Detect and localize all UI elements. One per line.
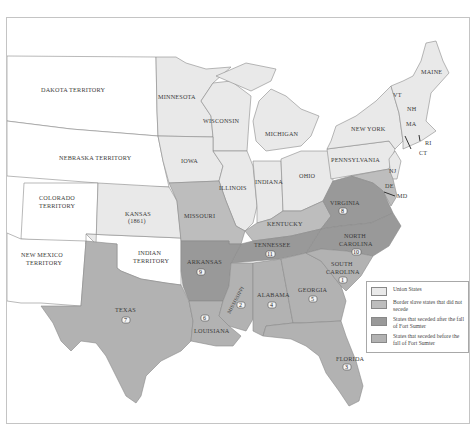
label-south-carolina-1: SOUTH bbox=[331, 260, 353, 267]
label-indiana: INDIANA bbox=[255, 178, 283, 185]
label-missouri: MISSOURI bbox=[184, 212, 215, 219]
label-colorado-territory-1: COLORADO bbox=[39, 194, 75, 201]
label-louisiana: LOUISIANA bbox=[194, 327, 230, 334]
label-pennsylvania: PENNSYLVANIA bbox=[331, 156, 380, 163]
label-illinois: ILLINOIS bbox=[219, 184, 247, 191]
label-michigan: MICHIGAN bbox=[265, 130, 299, 137]
legend-label: States that seceded after the fall of Fo… bbox=[393, 316, 464, 330]
order-alabama: 4 bbox=[270, 302, 273, 308]
label-ohio: OHIO bbox=[299, 172, 316, 179]
label-indian-territory-2: TERRITORY bbox=[133, 257, 169, 264]
label-massachusetts: MA bbox=[406, 120, 417, 127]
label-north-carolina-2: CAROLINA bbox=[339, 240, 373, 247]
legend-label: States that seceded before the fall of F… bbox=[393, 333, 464, 347]
label-north-carolina-1: NORTH bbox=[344, 232, 366, 239]
label-kansas: KANSAS bbox=[125, 210, 151, 217]
label-florida: FLORIDA bbox=[336, 355, 365, 362]
region-new-mexico-territory bbox=[7, 233, 86, 306]
legend-swatch-union bbox=[371, 287, 387, 296]
order-georgia: 5 bbox=[311, 296, 314, 302]
legend-label: Border slave states that did not secede bbox=[393, 299, 464, 313]
legend-label: Union States bbox=[393, 286, 422, 293]
legend-swatch-seceded-after bbox=[371, 317, 387, 326]
label-virginia: VIRGINIA bbox=[330, 199, 360, 206]
label-south-carolina-2: CAROLINA bbox=[326, 268, 360, 275]
legend-item-union: Union States bbox=[371, 286, 464, 296]
order-texas: 7 bbox=[124, 317, 127, 323]
label-colorado-territory-2: TERRITORY bbox=[39, 202, 75, 209]
order-mississippi: 2 bbox=[239, 302, 242, 308]
map-legend: Union States Border slave states that di… bbox=[366, 281, 469, 353]
legend-item-seceded-after: States that seceded after the fall of Fo… bbox=[371, 316, 464, 330]
order-tennessee: 11 bbox=[267, 251, 273, 257]
label-new-york: NEW YORK bbox=[351, 125, 386, 132]
order-south-carolina: 1 bbox=[341, 277, 344, 283]
region-new-york bbox=[327, 86, 403, 149]
label-indian-territory-1: INDIAN bbox=[138, 249, 162, 256]
label-new-mexico-territory-1: NEW MEXICO bbox=[21, 251, 63, 258]
order-florida: 3 bbox=[345, 364, 348, 370]
label-texas: TEXAS bbox=[115, 306, 136, 313]
label-wisconsin: WISCONSIN bbox=[203, 117, 240, 124]
order-arkansas: 9 bbox=[199, 269, 202, 275]
label-connecticut: CT bbox=[419, 149, 427, 156]
order-north-carolina: 10 bbox=[353, 249, 359, 255]
label-rhode-island: RI bbox=[425, 139, 432, 146]
map-frame: DAKOTA TERRITORY NEBRASKA TERRITORY COLO… bbox=[6, 17, 470, 424]
label-new-hampshire: NH bbox=[407, 105, 417, 112]
label-alabama: ALABAMA bbox=[257, 291, 290, 298]
label-kansas-year: (1861) bbox=[128, 217, 146, 225]
label-new-jersey: NJ bbox=[389, 167, 397, 174]
label-maryland: MD bbox=[397, 192, 408, 199]
label-tennessee: TENNESSEE bbox=[254, 241, 291, 248]
legend-swatch-border bbox=[371, 300, 387, 309]
label-kentucky: KENTUCKY bbox=[267, 220, 303, 227]
label-minnesota: MINNESOTA bbox=[158, 93, 196, 100]
order-virginia: 8 bbox=[341, 208, 344, 214]
region-florida bbox=[263, 321, 363, 406]
label-delaware: DE bbox=[385, 182, 394, 189]
legend-item-border: Border slave states that did not secede bbox=[371, 299, 464, 313]
label-arkansas: ARKANSAS bbox=[187, 258, 222, 265]
label-dakota-territory: DAKOTA TERRITORY bbox=[41, 86, 106, 93]
label-maine: MAINE bbox=[421, 68, 442, 75]
label-new-mexico-territory-2: TERRITORY bbox=[26, 259, 62, 266]
label-vermont: VT bbox=[393, 91, 402, 98]
label-nebraska-territory: NEBRASKA TERRITORY bbox=[59, 154, 132, 161]
label-iowa: IOWA bbox=[181, 157, 198, 164]
civil-war-states-map: DAKOTA TERRITORY NEBRASKA TERRITORY COLO… bbox=[7, 18, 470, 424]
legend-swatch-seceded-before bbox=[371, 334, 387, 343]
order-louisiana: 6 bbox=[203, 315, 206, 321]
label-georgia: GEORGIA bbox=[298, 286, 328, 293]
legend-item-seceded-before: States that seceded before the fall of F… bbox=[371, 333, 464, 347]
